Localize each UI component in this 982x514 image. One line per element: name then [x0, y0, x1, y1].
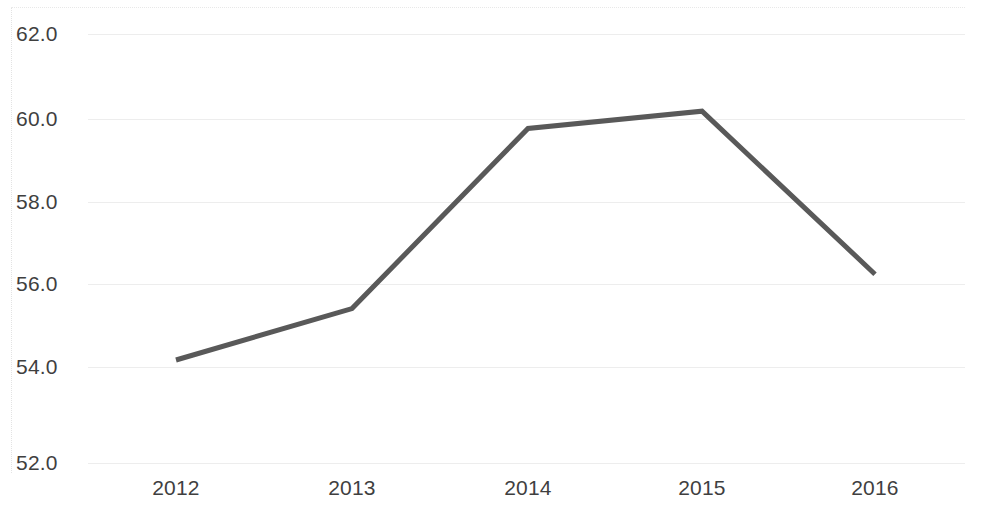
gridline-58 — [88, 202, 965, 203]
x-axis-tick-label: 2012 — [116, 477, 236, 498]
gridline-52 — [88, 463, 965, 464]
x-axis-tick-label: 2016 — [815, 477, 935, 498]
gridline-56 — [88, 284, 965, 285]
x-axis-tick-label: 2014 — [468, 477, 588, 498]
x-axis-tick-label: 2015 — [642, 477, 762, 498]
y-axis-tick-label: 60.0 — [16, 108, 78, 129]
x-axis-tick-label: 2013 — [292, 477, 412, 498]
line-chart: 62.0 60.0 58.0 56.0 54.0 52.0 2012 2013 … — [0, 0, 982, 514]
y-axis-tick-label: 56.0 — [16, 273, 78, 294]
plot-area-frame — [11, 7, 965, 473]
gridline-62 — [88, 34, 965, 35]
gridline-54 — [88, 367, 965, 368]
gridline-60 — [88, 119, 965, 120]
y-axis-tick-label: 52.0 — [16, 452, 78, 473]
y-axis-tick-label: 62.0 — [16, 23, 78, 44]
y-axis-tick-label: 54.0 — [16, 356, 78, 377]
y-axis-tick-label: 58.0 — [16, 191, 78, 212]
